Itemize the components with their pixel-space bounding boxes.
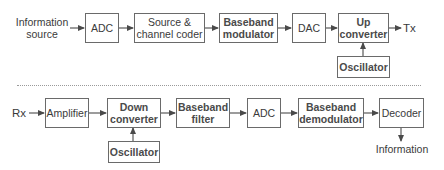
dac-label: DAC: [298, 22, 320, 34]
tx-adc-block: ADC: [85, 13, 119, 43]
down-converter-block: Down converter: [107, 98, 161, 128]
tx-oscillator-label: Oscillator: [339, 61, 387, 73]
up-converter-label: Up converter: [340, 16, 388, 40]
baseband-demodulator-block: Baseband demodulator: [298, 98, 364, 128]
baseband-filter-label: Baseband filter: [178, 101, 228, 125]
baseband-filter-block: Baseband filter: [176, 98, 230, 128]
rx-adc-label: ADC: [253, 107, 275, 119]
baseband-modulator-block: Baseband modulator: [219, 13, 278, 43]
source-channel-coder-block: Source & channel coder: [134, 13, 205, 43]
source-channel-coder-label: Source & channel coder: [137, 16, 203, 40]
tx-adc-label: ADC: [91, 22, 113, 34]
up-converter-block: Up converter: [338, 13, 389, 43]
down-converter-label: Down converter: [110, 101, 158, 125]
amplifier-label: Amplifier: [47, 107, 88, 119]
decoder-block: Decoder: [379, 98, 424, 128]
amplifier-block: Amplifier: [45, 98, 89, 128]
information-source-label: Information source: [14, 16, 70, 40]
section-divider: [17, 85, 421, 86]
rx-oscillator-block: Oscillator: [108, 141, 160, 163]
baseband-modulator-label: Baseband modulator: [223, 16, 274, 40]
baseband-demodulator-label: Baseband demodulator: [299, 101, 363, 125]
rx-adc-block: ADC: [247, 98, 281, 128]
dac-block: DAC: [292, 13, 326, 43]
decoder-label: Decoder: [382, 107, 422, 119]
tx-label: Tx: [403, 22, 416, 34]
information-output-label: Information: [374, 143, 430, 155]
tx-oscillator-block: Oscillator: [337, 56, 390, 78]
rx-oscillator-label: Oscillator: [110, 146, 158, 158]
rx-label: Rx: [12, 107, 26, 119]
